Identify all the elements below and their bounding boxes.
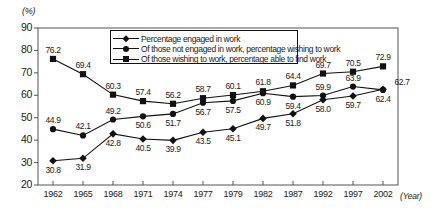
legend-label: Of those wishing to work, percentage abl…	[141, 54, 326, 64]
data-point-label: 60.9	[248, 97, 278, 107]
data-point-marker	[200, 95, 206, 101]
data-point-label: 44.9	[38, 115, 68, 125]
data-point-label: 50.6	[128, 120, 158, 130]
data-point-marker	[320, 70, 326, 76]
data-point-marker	[320, 92, 326, 98]
x-tick-label: 2002	[366, 189, 400, 199]
y-tick-label: 90	[10, 21, 32, 33]
y-tick-label: 30	[10, 156, 32, 168]
data-point-marker	[139, 135, 147, 143]
x-tick-label: 1997	[336, 189, 370, 199]
x-axis-caption: (Year)	[400, 191, 422, 201]
data-point-label: 76.2	[38, 45, 68, 55]
data-point-marker	[169, 137, 177, 145]
data-point-marker	[170, 101, 176, 107]
x-tick-label: 1987	[276, 189, 310, 199]
data-point-label: 69.4	[68, 60, 98, 70]
data-point-label: 31.9	[68, 162, 98, 172]
data-point-label: 62.4	[368, 94, 398, 104]
data-point-label: 51.7	[158, 118, 188, 128]
data-point-marker	[289, 110, 297, 118]
legend-item-3: Of those wishing to work, percentage abl…	[113, 54, 326, 65]
data-point-label: 40.5	[128, 143, 158, 153]
data-point-marker	[50, 56, 56, 62]
data-point-label: 60.1	[218, 81, 248, 91]
data-point-label: 45.1	[218, 133, 248, 143]
data-point-marker	[380, 63, 386, 69]
data-point-label: 49.2	[98, 106, 128, 116]
data-point-label: 57.5	[218, 105, 248, 115]
data-point-marker	[199, 128, 207, 136]
data-point-marker	[140, 113, 146, 119]
y-tick-label: 70	[10, 66, 32, 78]
data-point-label: 72.9	[368, 52, 398, 62]
data-point-marker	[290, 94, 296, 100]
y-tick-label: 40	[10, 133, 32, 145]
y-tick-label: 50	[10, 111, 32, 123]
data-point-marker	[229, 125, 237, 133]
data-point-marker	[290, 82, 296, 88]
x-tick-label: 1977	[186, 189, 220, 199]
data-point-label: 69.7	[308, 60, 338, 70]
legend-label: Percentage engaged in work	[141, 34, 240, 44]
data-point-marker	[50, 126, 56, 132]
legend-marker-diamond-icon	[113, 34, 139, 44]
data-point-marker	[110, 116, 116, 122]
y-tick-label: 80	[10, 43, 32, 55]
data-point-marker	[80, 71, 86, 77]
data-point-label: 58.0	[308, 104, 338, 114]
data-point-label: 49.7	[248, 122, 278, 132]
data-point-label: 62.7	[387, 77, 417, 87]
data-point-label: 61.8	[248, 77, 278, 87]
x-tick-label: 1965	[66, 189, 100, 199]
data-point-marker	[170, 111, 176, 117]
y-tick-label: 20	[10, 178, 32, 190]
x-tick-label: 1979	[216, 189, 250, 199]
line-chart: (%) 9080706050403020 1962196519681971197…	[0, 0, 430, 216]
data-point-label: 51.8	[278, 118, 308, 128]
data-point-marker	[259, 115, 267, 123]
legend-label: Of those not engaged in work, percentage…	[141, 44, 340, 54]
x-tick-label: 1968	[96, 189, 130, 199]
data-point-label: 56.7	[188, 107, 218, 117]
data-point-label: 43.5	[188, 136, 218, 146]
data-point-label: 30.8	[38, 165, 68, 175]
data-point-marker	[140, 98, 146, 104]
data-point-marker	[110, 92, 116, 98]
data-point-label: 64.4	[278, 71, 308, 81]
data-point-marker	[350, 83, 356, 89]
data-point-label: 39.9	[158, 144, 188, 154]
x-tick-label: 1971	[126, 189, 160, 199]
x-tick-label: 1974	[156, 189, 190, 199]
data-point-label: 60.3	[98, 81, 128, 91]
data-point-label: 57.4	[128, 87, 158, 97]
data-point-marker	[230, 92, 236, 98]
data-point-marker	[260, 88, 266, 94]
data-point-label: 63.9	[338, 73, 368, 83]
data-point-label: 70.5	[338, 58, 368, 68]
data-point-marker	[380, 87, 386, 93]
data-point-label: 42.1	[68, 121, 98, 131]
data-point-label: 59.9	[308, 82, 338, 92]
data-point-label: 42.8	[98, 138, 128, 148]
x-tick-label: 1962	[36, 189, 70, 199]
data-point-marker	[80, 132, 86, 138]
legend-marker-circle-icon	[113, 44, 139, 54]
data-point-marker	[349, 92, 357, 100]
x-tick-label: 1992	[306, 189, 340, 199]
data-point-label: 56.2	[158, 90, 188, 100]
data-point-label: 58.7	[188, 84, 218, 94]
data-point-label: 59.4	[278, 101, 308, 111]
legend-marker-square-icon	[113, 54, 139, 64]
data-point-marker	[49, 157, 57, 165]
data-point-label: 59.7	[338, 100, 368, 110]
y-tick-label: 60	[10, 88, 32, 100]
x-tick-label: 1982	[246, 189, 280, 199]
data-point-marker	[230, 98, 236, 104]
